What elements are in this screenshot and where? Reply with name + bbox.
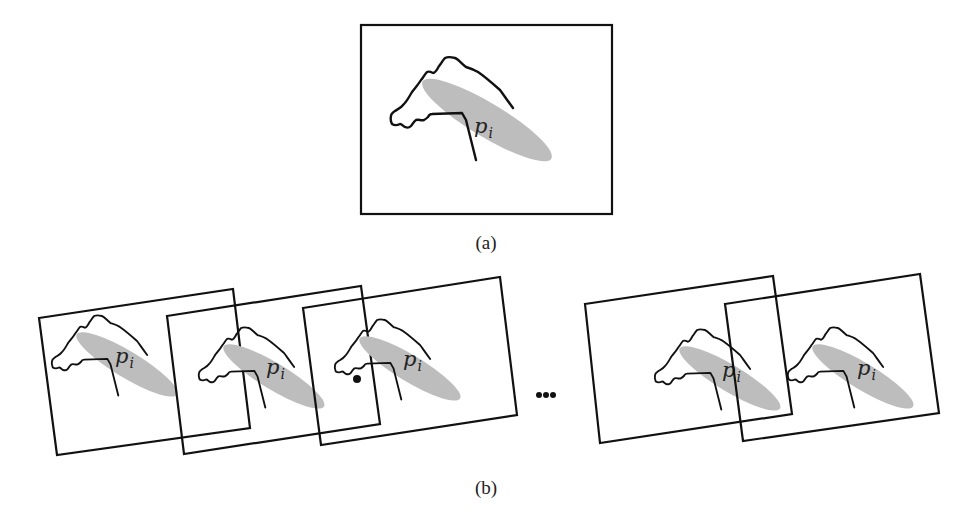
point-label: pi (266, 355, 285, 382)
caption-a: (a) (475, 232, 496, 254)
frame-1: pi (39, 289, 250, 455)
frame-2: pi (167, 286, 380, 454)
panel-a: pi (a) (361, 25, 612, 254)
silhouette-with-blob (655, 329, 787, 419)
figure-canvas: pi (a) pi pi pi (0, 0, 968, 515)
silhouette-with-blob (788, 327, 920, 417)
point-label: pi (857, 356, 876, 383)
highlight-point-marker (353, 375, 361, 383)
point-label: pi (722, 358, 741, 385)
panel-b: pi pi pi pi pi (39, 274, 939, 499)
point-label: pi (115, 344, 134, 371)
frame-5: pi (725, 274, 939, 441)
silhouette-with-blob (335, 319, 467, 409)
frame-3: pi (303, 277, 517, 445)
frame-4: pi (585, 276, 792, 443)
point-label: pi (403, 347, 422, 374)
ellipsis-indicator (536, 392, 556, 398)
caption-b: (b) (475, 477, 497, 499)
